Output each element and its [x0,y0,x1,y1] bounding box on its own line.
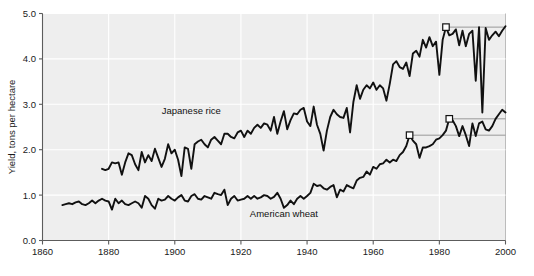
rice-record-marker [443,24,450,31]
x-tick-label: 1920 [230,246,251,257]
y-tick-label: 1.0 [23,190,36,201]
x-tick-label: 1900 [164,246,185,257]
y-axis-title: Yield, tons per hectare [6,80,17,175]
y-tick-label: 3.0 [23,99,36,110]
x-tick-label: 1880 [98,246,119,257]
chart-figure: 0.01.02.03.04.05.01860188019001920194019… [0,0,534,276]
american-wheat-label: American wheat [250,208,318,219]
x-tick-label: 1960 [363,246,384,257]
y-tick-label: 5.0 [23,8,36,19]
japanese-rice-label: Japanese rice [162,105,221,116]
y-tick-label: 0.0 [23,235,36,246]
x-tick-label: 1940 [297,246,318,257]
x-tick-label: 1980 [429,246,450,257]
y-tick-label: 4.0 [23,53,36,64]
wheat-marker-1 [406,132,413,139]
wheat-marker-2 [446,116,453,123]
yield-line-chart: 0.01.02.03.04.05.01860188019001920194019… [0,0,534,276]
y-tick-label: 2.0 [23,144,36,155]
x-tick-label: 1860 [32,246,53,257]
x-tick-label: 2000 [495,246,516,257]
